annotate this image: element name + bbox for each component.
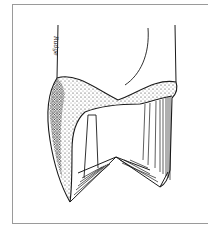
tooth-illustration xyxy=(0,0,208,233)
artist-signature: Rudge xyxy=(53,36,60,56)
retention-groove xyxy=(84,115,98,178)
tooth-outline xyxy=(57,25,176,85)
enamel-stippled-area xyxy=(49,77,177,202)
